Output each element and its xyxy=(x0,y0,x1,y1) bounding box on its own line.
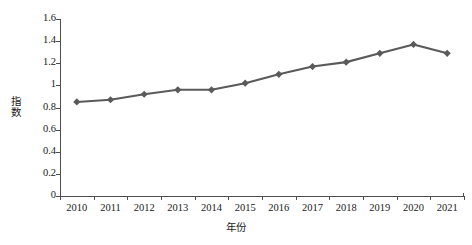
x-tick-6 xyxy=(262,196,263,200)
data-point-2021 xyxy=(444,50,451,57)
y-tick-label-0.2: 0.2 xyxy=(43,168,56,178)
y-tick-label-0.8: 0.8 xyxy=(43,102,56,112)
data-point-2011 xyxy=(107,96,114,103)
x-tick-label-2015: 2015 xyxy=(228,202,262,214)
line-chart: 00.20.40.60.811.21.41.6 2010201120122013… xyxy=(0,0,472,245)
x-tick-label-2010: 2010 xyxy=(60,202,94,214)
y-tick-label-1.2: 1.2 xyxy=(43,57,56,67)
x-tick-label-2013: 2013 xyxy=(161,202,195,214)
y-tick-label-1.6: 1.6 xyxy=(43,13,56,23)
x-tick-label-2019: 2019 xyxy=(363,202,397,214)
data-point-2017 xyxy=(309,63,316,70)
y-tick-label-0.4: 0.4 xyxy=(43,146,56,156)
x-tick-10 xyxy=(397,196,398,200)
y-tick-0.8 xyxy=(56,108,61,109)
x-tick-3 xyxy=(161,196,162,200)
y-tick-1.2 xyxy=(56,63,61,64)
y-tick-0.2 xyxy=(56,174,61,175)
x-tick-label-2018: 2018 xyxy=(329,202,363,214)
x-tick-label-2016: 2016 xyxy=(262,202,296,214)
x-tick-label-2017: 2017 xyxy=(296,202,330,214)
x-tick-9 xyxy=(363,196,364,200)
y-tick-label-1.4: 1.4 xyxy=(43,35,56,45)
y-tick-1 xyxy=(56,85,61,86)
x-tick-label-2021: 2021 xyxy=(430,202,464,214)
x-tick-4 xyxy=(195,196,196,200)
data-point-2012 xyxy=(141,91,148,98)
x-tick-label-2012: 2012 xyxy=(127,202,161,214)
x-tick-label-2014: 2014 xyxy=(195,202,229,214)
x-tick-11 xyxy=(430,196,431,200)
series-markers xyxy=(73,41,451,106)
data-point-2018 xyxy=(343,59,350,66)
x-tick-7 xyxy=(296,196,297,200)
x-tick-12 xyxy=(464,196,465,200)
y-axis-title: 指数 xyxy=(6,96,20,118)
x-tick-label-2011: 2011 xyxy=(94,202,128,214)
data-point-2016 xyxy=(275,71,282,78)
y-tick-label-0.6: 0.6 xyxy=(43,124,56,134)
x-tick-8 xyxy=(329,196,330,200)
data-point-2013 xyxy=(174,86,181,93)
data-point-2015 xyxy=(242,80,249,87)
x-tick-label-2020: 2020 xyxy=(397,202,431,214)
y-tick-1.4 xyxy=(56,41,61,42)
series-line-index xyxy=(77,44,447,102)
x-tick-5 xyxy=(228,196,229,200)
x-tick-0 xyxy=(60,196,61,200)
data-point-2019 xyxy=(376,50,383,57)
x-axis-title: 年份 xyxy=(0,219,472,234)
data-point-2020 xyxy=(410,41,417,48)
x-tick-1 xyxy=(94,196,95,200)
y-tick-1.6 xyxy=(56,19,61,20)
x-tick-2 xyxy=(127,196,128,200)
y-tick-label-1: 1 xyxy=(51,79,56,89)
y-tick-0.6 xyxy=(56,130,61,131)
data-point-2010 xyxy=(73,98,80,105)
data-point-2014 xyxy=(208,86,215,93)
y-tick-0.4 xyxy=(56,152,61,153)
y-tick-label-0: 0 xyxy=(51,190,56,200)
